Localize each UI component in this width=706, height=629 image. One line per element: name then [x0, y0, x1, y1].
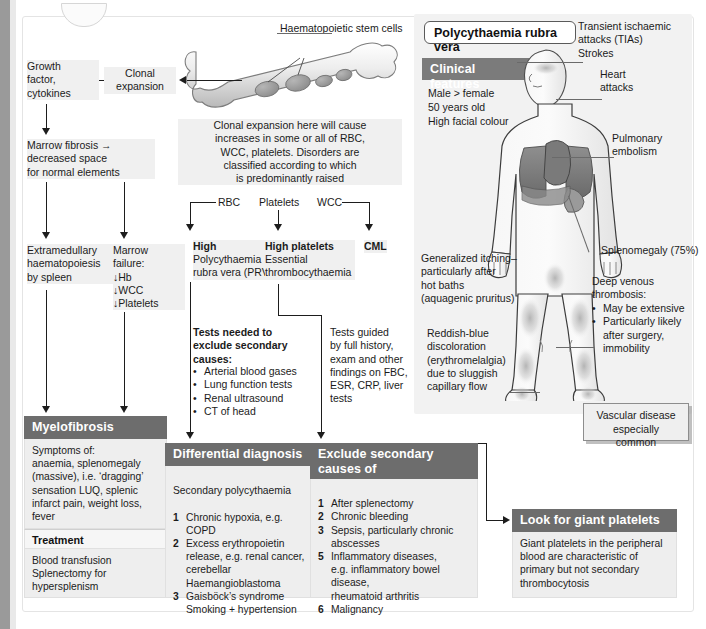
fibrosis-left-arrow — [42, 232, 50, 239]
bullet-item: •Lung function tests — [193, 378, 313, 391]
myelofibrosis-symptoms: Symptoms of: anaemia, splenomegaly (mass… — [24, 439, 167, 529]
list-item: 3Gaisböck’s syndrome Smoking + hypertens… — [173, 590, 305, 616]
page-top-tab — [61, 3, 107, 27]
stem-cells-leader — [277, 33, 332, 34]
pulmonary-embolism-leader — [552, 157, 614, 158]
bullet-item-text: Renal ultrasound — [204, 392, 283, 405]
clonal-expansion-label: Clonal expansion — [104, 67, 176, 94]
list-item-text: Malignancy — [331, 603, 383, 616]
high-haemoglobin-body: Polycythaemia rubra vera (PRV) — [193, 253, 275, 280]
rbc-leader-v — [190, 202, 191, 226]
bullet-item-text: Lung function tests — [204, 378, 292, 391]
tests-needed-title: Tests needed to exclude secondary causes… — [193, 326, 303, 366]
platelets-branch-arrow — [317, 432, 325, 439]
list-item: 1Chronic hypoxia, e.g. COPD — [173, 511, 305, 537]
giant-platelets-body: Giant platelets in the peripheral blood … — [512, 532, 677, 598]
differential-diagnosis-header: Differential diagnosis — [165, 443, 313, 466]
page-gutter-dark — [0, 0, 10, 629]
platelets-branch-v2 — [321, 315, 322, 434]
bullet-item-text: Particularly likely after surgery, immob… — [603, 315, 681, 355]
fibrosis-left-branch — [46, 182, 47, 234]
dvt-leader — [556, 347, 594, 348]
exclude-secondary-header: Exclude secondary causes of thrombocytos… — [310, 443, 478, 479]
list-item-number: 6 — [318, 603, 327, 616]
list-item: 6Malignancy — [318, 603, 470, 616]
prv-to-differential-arrow — [186, 432, 194, 439]
wcc-leader-h — [342, 202, 370, 203]
wcc-arrow — [365, 224, 373, 231]
tests-guided-label: Tests guided by full history, exam and o… — [330, 326, 408, 406]
fibrosis-right-branch — [124, 182, 125, 234]
lineage-wcc-label: WCC — [317, 196, 342, 209]
list-item-number: 1 — [173, 511, 182, 537]
marrow-failure-label: Marrow failure: ↓Hb ↓WCC ↓Platelets — [113, 244, 185, 310]
list-item-number: 3 — [318, 524, 327, 550]
growth-factor-label: Growth factor, cytokines — [27, 60, 99, 100]
high-platelets-title: High platelets — [265, 240, 355, 253]
myelofibrosis-treatment-body: Blood transfusion Splenectomy for hypers… — [24, 549, 167, 598]
list-item-number: 2 — [318, 510, 327, 523]
list-item-number: 2 — [173, 537, 182, 590]
bullet-dot-icon: • — [193, 405, 200, 418]
list-item-text: Inflammatory diseases, e.g. inflammatory… — [331, 550, 470, 603]
bullet-item: •Arterial blood gases — [193, 365, 313, 378]
list-item-text: After splenectomy — [331, 497, 413, 510]
list-item: 2Excess erythropoietin release, e.g. ren… — [173, 537, 305, 590]
list-item: 2Chronic bleeding — [318, 510, 470, 523]
heart-attacks-leader — [556, 99, 602, 100]
heart-attacks-label: Heart attacks — [600, 68, 666, 95]
erythromelalgia-label: Reddish-blue discoloration (erythromelal… — [427, 327, 533, 393]
list-item-text: Gaisböck’s syndrome Smoking + hypertensi… — [186, 590, 297, 616]
wcc-leader-v — [369, 202, 370, 226]
marrow-failure-to-myelofibrosis-arrow — [120, 406, 128, 413]
splenomegaly-label: Splenomegaly (75%) — [601, 244, 703, 257]
platelets-branch-h — [278, 315, 322, 316]
erythromelalgia-leader — [510, 392, 540, 393]
bullet-dot-icon: • — [592, 302, 599, 315]
tia-leader — [517, 62, 583, 63]
list-item: 5Inflammatory diseases, e.g. inflammator… — [318, 550, 470, 603]
itching-label: Generalized itching– particularly after … — [421, 252, 525, 305]
myelofibrosis-header: Myelofibrosis — [24, 416, 167, 439]
bullet-item-text: CT of head — [204, 405, 256, 418]
list-item-text: Chronic hypoxia, e.g. COPD — [186, 511, 305, 537]
bone-to-clonal-arrow — [179, 76, 186, 84]
list-item-text: Chronic bleeding — [331, 510, 408, 523]
bone-illustration — [182, 38, 404, 112]
bullet-dot-icon: • — [193, 378, 200, 391]
high-platelets-body: Essential thrombocythaemia — [265, 253, 355, 280]
cml-label: CML — [364, 240, 387, 253]
prv-title-pill: Polycythaemia rubra vera — [424, 21, 576, 44]
bullet-dot-icon: • — [592, 315, 599, 355]
list-item-text: Sepsis, particularly chronic abscesses — [331, 524, 453, 550]
bullet-item: •CT of head — [193, 405, 313, 418]
marrow-failure-to-myelofibrosis-line — [124, 312, 125, 408]
list-item: 1After splenectomy — [318, 497, 470, 510]
fibrosis-right-arrow — [120, 232, 128, 239]
growth-to-fibrosis-arrow — [42, 128, 50, 135]
bullet-item: •Particularly likely after surgery, immo… — [592, 315, 700, 355]
exclude-to-giant-top — [478, 443, 487, 444]
platelets-arrow — [274, 224, 282, 231]
dvt-list: •May be extensive•Particularly likely af… — [592, 302, 700, 355]
rbc-leader-h — [190, 202, 216, 203]
tests-needed-list: •Arterial blood gases•Lung function test… — [193, 365, 313, 418]
dvt-title: Deep venous thrombosis: — [592, 275, 698, 302]
bone-to-clonal-line — [187, 80, 242, 81]
list-item-number: 3 — [173, 590, 182, 616]
page-gutter-light — [10, 0, 16, 629]
list-item: 3Sepsis, particularly chronic abscesses — [318, 524, 470, 550]
exclude-to-giant-v — [486, 443, 487, 521]
vascular-disease-box: Vascular disease especially common — [583, 403, 689, 441]
growth-to-fibrosis-line — [46, 104, 47, 130]
platelets-branch-v1 — [278, 284, 279, 316]
bullet-dot-icon: • — [193, 365, 200, 378]
marrow-fibrosis-label: Marrow fibrosis → decreased space for no… — [27, 139, 155, 179]
diagram-page: Haematopoietic stem cells Clonal expansi… — [0, 0, 706, 629]
extramedullary-to-myelofibrosis-line — [46, 290, 47, 408]
lineage-rbc-label: RBC — [218, 196, 240, 209]
exclude-to-giant-arrow — [503, 516, 510, 524]
prv-to-differential-line — [190, 282, 191, 434]
giant-platelets-header: Look for giant platelets — [512, 509, 677, 532]
myelofibrosis-treatment-header: Treatment — [24, 529, 167, 549]
